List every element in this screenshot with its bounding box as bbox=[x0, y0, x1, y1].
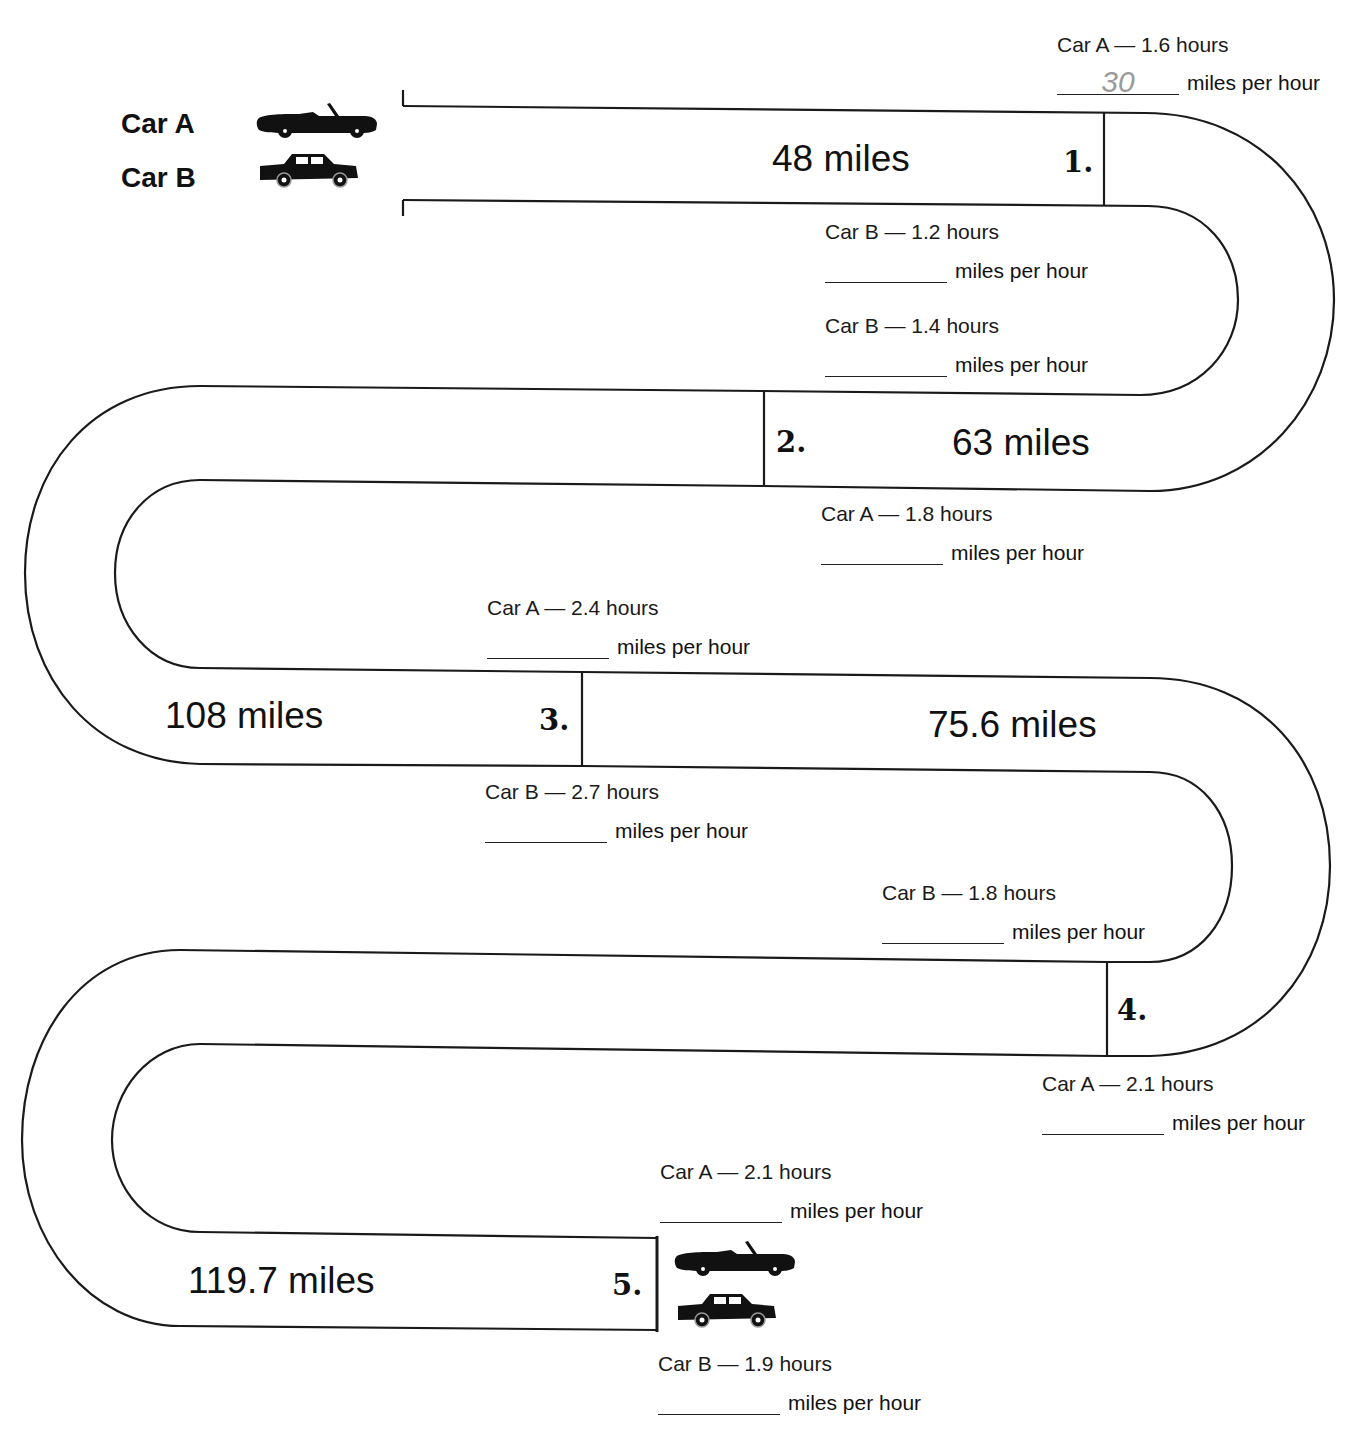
seg3-car-b-answer-field[interactable] bbox=[485, 818, 607, 843]
seg2-car-b-time: Car B — 1.4 hours bbox=[825, 314, 999, 338]
seg1-number: 1. bbox=[1063, 145, 1093, 179]
unit-label: miles per hour bbox=[615, 819, 748, 843]
sedan-car-icon bbox=[676, 1292, 778, 1330]
seg3-number: 3. bbox=[539, 703, 569, 737]
seg4-car-b-answer-row: miles per hour bbox=[882, 919, 1145, 944]
seg1-car-b-answer-row: miles per hour bbox=[825, 258, 1088, 283]
seg3-distance-right: 75.6 miles bbox=[928, 704, 1097, 746]
seg3-car-a-answer-field[interactable] bbox=[487, 634, 609, 659]
seg5-car-b-answer-row: miles per hour bbox=[658, 1390, 921, 1415]
unit-label: miles per hour bbox=[1012, 920, 1145, 944]
seg1-distance: 48 miles bbox=[772, 138, 910, 180]
seg4-number: 4. bbox=[1117, 993, 1147, 1027]
seg1-car-b-time: Car B — 1.2 hours bbox=[825, 220, 999, 244]
seg3-car-a-time: Car A — 2.4 hours bbox=[487, 596, 659, 620]
seg5-car-b-time: Car B — 1.9 hours bbox=[658, 1352, 832, 1376]
seg3-car-b-answer-row: miles per hour bbox=[485, 818, 748, 843]
seg1-car-a-time: Car A — 1.6 hours bbox=[1057, 33, 1229, 57]
seg2-number: 2. bbox=[776, 425, 806, 459]
seg2-car-a-time: Car A — 1.8 hours bbox=[821, 502, 993, 526]
unit-label: miles per hour bbox=[955, 259, 1088, 283]
seg5-car-a-time: Car A — 2.1 hours bbox=[660, 1160, 832, 1184]
seg4-car-a-answer-field[interactable] bbox=[1042, 1110, 1164, 1135]
seg2-car-a-answer-row: miles per hour bbox=[821, 540, 1084, 565]
seg5-number: 5. bbox=[612, 1268, 642, 1302]
seg1-car-a-answer-field[interactable]: 30 bbox=[1057, 70, 1179, 95]
seg5-car-a-answer-row: miles per hour bbox=[660, 1198, 923, 1223]
seg1-car-b-answer-field[interactable] bbox=[825, 258, 947, 283]
sedan-car-icon bbox=[258, 152, 360, 190]
seg2-car-a-answer-field[interactable] bbox=[821, 540, 943, 565]
seg5-car-a-answer-field[interactable] bbox=[660, 1198, 782, 1223]
unit-label: miles per hour bbox=[955, 353, 1088, 377]
seg5-distance: 119.7 miles bbox=[188, 1260, 374, 1302]
legend-car-a-label: Car A bbox=[121, 108, 195, 140]
seg5-car-b-answer-field[interactable] bbox=[658, 1390, 780, 1415]
convertible-car-icon bbox=[255, 102, 379, 140]
unit-label: miles per hour bbox=[951, 541, 1084, 565]
seg4-car-a-time: Car A — 2.1 hours bbox=[1042, 1072, 1214, 1096]
seg3-car-b-time: Car B — 2.7 hours bbox=[485, 780, 659, 804]
unit-label: miles per hour bbox=[617, 635, 750, 659]
seg1-car-a-answer-row: 30 miles per hour bbox=[1057, 70, 1320, 95]
convertible-car-icon bbox=[673, 1240, 797, 1278]
legend-car-b-label: Car B bbox=[121, 162, 196, 194]
seg3-car-a-answer-row: miles per hour bbox=[487, 634, 750, 659]
seg2-distance: 63 miles bbox=[952, 422, 1090, 464]
seg4-car-b-time: Car B — 1.8 hours bbox=[882, 881, 1056, 905]
unit-label: miles per hour bbox=[788, 1391, 921, 1415]
unit-label: miles per hour bbox=[790, 1199, 923, 1223]
unit-label: miles per hour bbox=[1172, 1111, 1305, 1135]
unit-label: miles per hour bbox=[1187, 71, 1320, 95]
seg3-distance-left: 108 miles bbox=[165, 695, 323, 737]
seg4-car-a-answer-row: miles per hour bbox=[1042, 1110, 1305, 1135]
seg4-car-b-answer-field[interactable] bbox=[882, 919, 1004, 944]
seg2-car-b-answer-row: miles per hour bbox=[825, 352, 1088, 377]
seg2-car-b-answer-field[interactable] bbox=[825, 352, 947, 377]
